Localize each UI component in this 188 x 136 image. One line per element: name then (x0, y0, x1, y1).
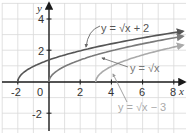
label-sqrt-x-minus-3: y = √x − 3 (118, 101, 166, 113)
svg-text:2: 2 (77, 86, 83, 98)
svg-text:8: 8 (170, 86, 176, 98)
label-sqrt-x-plus-2: y = √x + 2 (101, 22, 149, 34)
x-tick-labels: -2 0 2 4 6 8 (11, 86, 176, 98)
svg-text:4: 4 (108, 86, 114, 98)
svg-text:2: 2 (38, 45, 44, 57)
pointer-sqrt-x-plus-2 (86, 26, 100, 47)
label-sqrt-x: y = √x (130, 62, 160, 74)
svg-text:0: 0 (37, 86, 43, 98)
svg-text:-2: -2 (11, 86, 21, 98)
svg-text:6: 6 (139, 86, 145, 98)
svg-text:4: 4 (38, 13, 44, 25)
svg-text:-2: -2 (32, 108, 42, 120)
sqrt-function-graph: y x -2 0 2 4 6 8 4 2 -2 y = √x + 2 y = √… (0, 0, 188, 136)
x-axis-label: x (178, 85, 184, 97)
